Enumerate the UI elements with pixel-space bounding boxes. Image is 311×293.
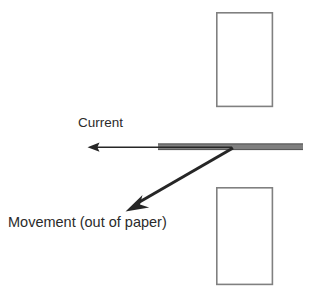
movement-label: Movement (out of paper) [8,215,167,230]
current-label: Current [78,116,123,130]
motor-effect-diagram [0,0,311,293]
top-magnet-pole [217,13,273,107]
diagram-canvas: Current Movement (out of paper) [0,0,311,293]
bottom-magnet-pole [217,188,273,285]
